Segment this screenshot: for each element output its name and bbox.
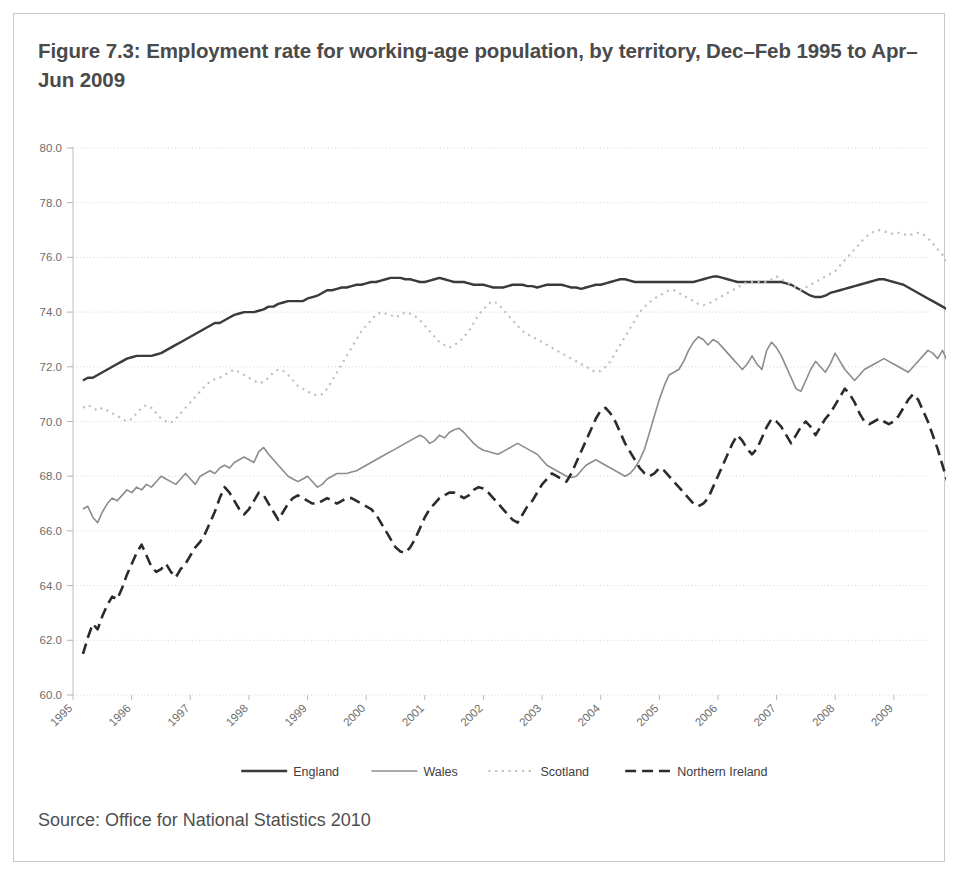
y-tick-label: 76.0 (40, 251, 62, 263)
series-line-scotland (83, 230, 946, 423)
y-tick-label: 72.0 (40, 361, 62, 373)
x-tick-label: 2006 (693, 702, 720, 729)
legend-label-wales: Wales (423, 765, 457, 779)
employment-rate-line-chart: 60.062.064.066.068.070.072.074.076.078.0… (14, 14, 946, 863)
y-tick-label: 66.0 (40, 525, 62, 537)
x-tick-label: 2001 (400, 702, 427, 729)
x-tick-label: 2000 (341, 702, 368, 729)
x-tick-label: 2004 (576, 702, 603, 729)
y-tick-label: 78.0 (40, 197, 62, 209)
x-tick-label: 1999 (282, 702, 309, 729)
x-tick-label: 2005 (634, 702, 661, 729)
x-tick-label: 1997 (165, 702, 192, 729)
gridlines-group (73, 148, 929, 695)
x-tick-label: 2008 (810, 702, 837, 729)
y-tick-label: 68.0 (40, 470, 62, 482)
y-tick-label: 74.0 (40, 306, 62, 318)
series-line-wales (83, 337, 946, 523)
series-line-england (83, 277, 946, 381)
data-series-group (83, 230, 946, 654)
x-tick-label: 2009 (869, 702, 896, 729)
legend-label-northern-ireland: Northern Ireland (677, 765, 767, 779)
y-tick-label: 62.0 (40, 634, 62, 646)
y-tick-label: 80.0 (40, 142, 62, 154)
x-tick-label: 2007 (751, 702, 778, 729)
x-tick-label: 2003 (517, 702, 544, 729)
x-tick-label: 1998 (224, 702, 251, 729)
figure-container: Figure 7.3: Employment rate for working-… (13, 13, 945, 862)
y-tick-label: 64.0 (40, 580, 62, 592)
x-tick-label: 1996 (106, 702, 133, 729)
y-tick-label: 60.0 (40, 689, 62, 701)
x-axis-tick-labels: 1995199619971998199920002001200220032004… (48, 702, 895, 729)
legend-label-scotland: Scotland (540, 765, 589, 779)
x-tick-label: 2002 (458, 702, 485, 729)
x-tick-label: 1995 (48, 702, 75, 729)
y-tick-label: 70.0 (40, 416, 62, 428)
y-axis-tick-labels: 60.062.064.066.068.070.072.074.076.078.0… (40, 142, 62, 701)
series-line-northern-ireland (83, 389, 946, 654)
legend-label-england: England (293, 765, 339, 779)
chart-legend: EnglandWalesScotlandNorthern Ireland (241, 765, 767, 779)
source-note: Source: Office for National Statistics 2… (38, 810, 371, 831)
